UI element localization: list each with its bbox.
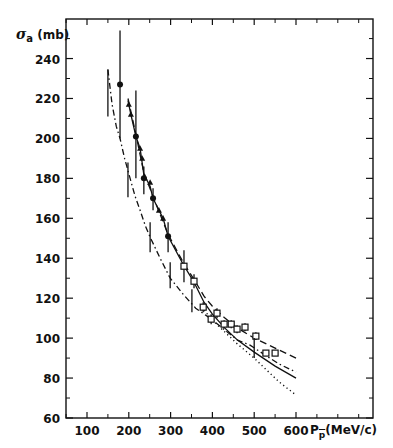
- y-tick-label: 160: [35, 212, 60, 226]
- y-tick-label: 140: [35, 252, 60, 266]
- x-tick-label: 200: [116, 424, 141, 438]
- open-square-marker: [234, 326, 240, 332]
- x-axis-label: Pp(MeV/c): [310, 423, 377, 437]
- open-square-marker: [200, 304, 206, 310]
- x-axis-unit: (MeV/c): [325, 423, 377, 437]
- filled-triangle-marker: [126, 101, 132, 107]
- filled-circle-marker: [141, 175, 147, 181]
- y-axis-label: σa (mb): [16, 26, 69, 42]
- x-tick-label: 500: [242, 424, 267, 438]
- y-tick-label: 60: [43, 412, 60, 426]
- y-axis-subscript: a: [26, 33, 33, 44]
- filled-triangle-marker: [156, 207, 162, 213]
- y-tick-label: 180: [35, 172, 60, 186]
- y-axis-symbol: σ: [16, 26, 26, 42]
- axes-box: [66, 19, 373, 418]
- data-points: [108, 31, 278, 359]
- y-tick-label: 220: [35, 92, 60, 106]
- open-square-marker: [181, 263, 187, 269]
- filled-triangle-marker: [128, 111, 134, 117]
- filled-circle-marker: [117, 82, 123, 88]
- open-square-marker: [221, 321, 227, 327]
- filled-circle-marker: [165, 233, 171, 239]
- y-tick-label: 100: [35, 332, 60, 346]
- open-square-marker: [272, 350, 278, 356]
- open-square-marker: [228, 321, 234, 327]
- axis-ticks: 1002003004005006006080100120140160180200…: [35, 19, 373, 438]
- x-axis-subscript: p: [319, 430, 325, 440]
- y-tick-label: 200: [35, 132, 60, 146]
- curve-solid: [128, 101, 296, 379]
- x-tick-label: 100: [74, 424, 99, 438]
- x-tick-label: 600: [283, 424, 308, 438]
- open-square-marker: [214, 310, 220, 316]
- curve-dotted: [204, 310, 296, 395]
- filled-circle-marker: [133, 133, 139, 139]
- x-tick-label: 400: [200, 424, 225, 438]
- y-axis-unit: (mb): [37, 28, 69, 42]
- plot-frame: [66, 19, 373, 418]
- open-square-marker: [263, 350, 269, 356]
- x-tick-label: 300: [158, 424, 183, 438]
- y-tick-label: 80: [43, 372, 60, 386]
- y-tick-label: 240: [35, 53, 60, 67]
- open-square-marker: [242, 324, 248, 330]
- y-tick-label: 120: [35, 292, 60, 306]
- filled-circle-marker: [150, 195, 156, 201]
- chart-canvas: 1002003004005006006080100120140160180200…: [0, 0, 393, 448]
- x-axis-symbol: P: [310, 423, 319, 437]
- open-square-marker: [208, 316, 214, 322]
- open-square-marker: [191, 278, 197, 284]
